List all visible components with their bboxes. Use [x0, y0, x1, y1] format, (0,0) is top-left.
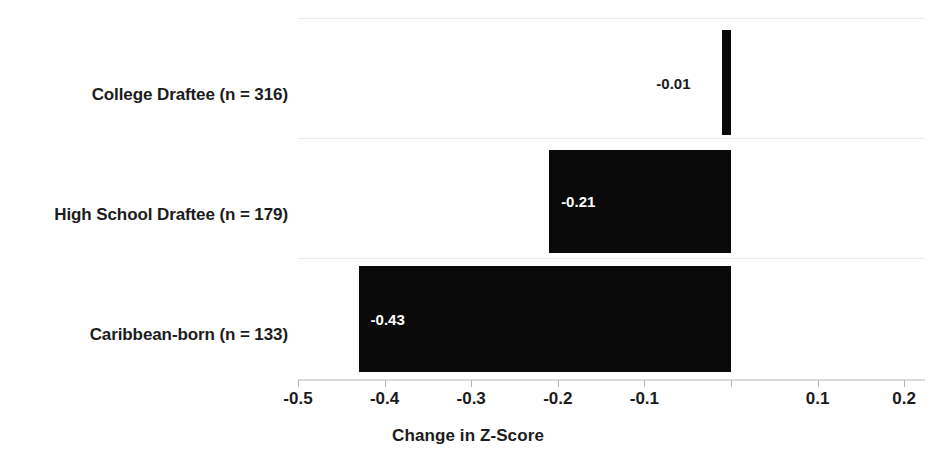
x-tick-mark-1	[385, 380, 386, 387]
gridline-2	[298, 258, 925, 259]
category-label-caribbean-born: Caribbean-born (n = 133)	[0, 326, 288, 343]
bar-college-draftee	[722, 30, 731, 135]
x-tick-mark-6	[818, 380, 819, 387]
x-tick-label-neg-0-3: -0.3	[436, 390, 506, 407]
category-label-high-school-draftee: High School Draftee (n = 179)	[0, 206, 288, 223]
x-axis-line	[298, 380, 925, 381]
x-tick-label-neg-0-1: -0.1	[609, 390, 679, 407]
x-tick-mark-5	[731, 380, 732, 387]
category-axis-labels: College Draftee (n = 316) High School Dr…	[0, 18, 288, 380]
plot-area: -0.01 -0.21 -0.43	[298, 18, 925, 380]
bar-chart: College Draftee (n = 316) High School Dr…	[0, 0, 936, 460]
x-axis-title: Change in Z-Score	[0, 427, 936, 444]
x-tick-label-0-1: 0.1	[783, 390, 853, 407]
x-tick-label-neg-0-5: -0.5	[263, 390, 333, 407]
x-tick-label-neg-0-4: -0.4	[350, 390, 420, 407]
bar-value-college-draftee: -0.01	[656, 76, 690, 91]
x-tick-label-neg-0-2: -0.2	[523, 390, 593, 407]
gridline-top	[298, 18, 925, 19]
bar-value-high-school-draftee: -0.21	[561, 194, 595, 209]
x-tick-label-0-2: 0.2	[869, 390, 936, 407]
category-label-college-draftee: College Draftee (n = 316)	[0, 86, 288, 103]
bar-caribbean-born	[359, 266, 731, 372]
x-tick-mark-2	[471, 380, 472, 387]
bar-value-caribbean-born: -0.43	[371, 312, 405, 327]
gridline-1	[298, 138, 925, 139]
x-tick-mark-zero	[904, 380, 905, 387]
x-tick-mark-0	[298, 380, 299, 387]
x-tick-mark-3	[558, 380, 559, 387]
x-tick-mark-4	[644, 380, 645, 387]
